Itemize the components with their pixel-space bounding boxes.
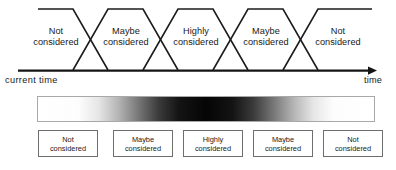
legend-box-line2: considered <box>50 144 86 153</box>
relevance-gradient-bar <box>37 96 375 122</box>
legend-box-line2: considered <box>335 144 371 153</box>
diagram-canvas: Not considered Maybe considered Highly c… <box>0 0 396 170</box>
mf-label-line2: considered <box>302 37 374 48</box>
legend-box-maybe-considered-right: Maybe considered <box>253 130 313 157</box>
axis-caption-current-time: current time <box>5 75 58 86</box>
mf-label-not-considered-left: Not considered <box>20 26 92 48</box>
mf-label-line1: Maybe <box>230 26 302 37</box>
mf-label-highly-considered: Highly considered <box>160 26 232 48</box>
mf-label-line1: Maybe <box>90 26 162 37</box>
legend-box-not-considered-left: Not considered <box>38 130 98 157</box>
axis-caption-time: time <box>364 75 382 86</box>
arrow-right-icon <box>368 66 377 74</box>
legend-box-line2: considered <box>265 144 301 153</box>
mf-label-maybe-considered-right: Maybe considered <box>230 26 302 48</box>
mf-label-maybe-considered-left: Maybe considered <box>90 26 162 48</box>
legend-box-line2: considered <box>195 144 231 153</box>
mf-label-line1: Not <box>20 26 92 37</box>
legend-box-line1: Not <box>347 135 359 144</box>
legend-box-line2: considered <box>125 144 161 153</box>
mf-label-not-considered-right: Not considered <box>302 26 374 48</box>
mf-label-line2: considered <box>230 37 302 48</box>
legend-box-highly-considered: Highly considered <box>183 130 243 157</box>
mf-label-line2: considered <box>20 37 92 48</box>
legend-box-maybe-considered-left: Maybe considered <box>113 130 173 157</box>
legend-box-line1: Not <box>62 135 74 144</box>
mf-label-line2: considered <box>90 37 162 48</box>
mf-label-line1: Highly <box>160 26 232 37</box>
legend-row: Not considered Maybe considered Highly c… <box>0 130 396 160</box>
legend-box-line1: Maybe <box>272 135 294 144</box>
legend-box-line1: Maybe <box>132 135 154 144</box>
mf-label-line2: considered <box>160 37 232 48</box>
mf-label-line1: Not <box>302 26 374 37</box>
legend-box-line1: Highly <box>203 135 224 144</box>
legend-box-not-considered-right: Not considered <box>323 130 383 157</box>
